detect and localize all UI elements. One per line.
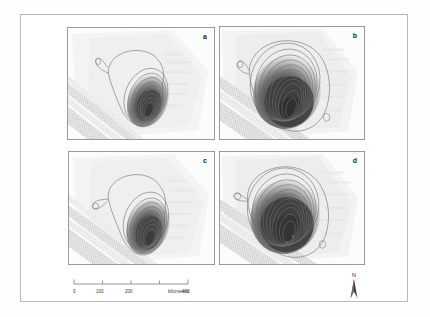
map-panel-c[interactable]: c xyxy=(68,151,215,265)
panel-b-label: b xyxy=(353,32,357,39)
north-arrow: N xyxy=(343,273,365,305)
panel-a-label: a xyxy=(203,33,207,40)
map-panel-a[interactable]: a xyxy=(67,27,215,140)
scale-tick-0: 0 xyxy=(73,290,76,295)
scale-bar-units: kilometers xyxy=(168,290,189,295)
north-arrow-label: N xyxy=(343,273,365,278)
panel-c-graphic xyxy=(69,152,214,264)
panel-a-graphic xyxy=(68,28,214,139)
figure-root: a xyxy=(0,0,430,317)
scale-bar: 0 100 200 400 kilometers xyxy=(73,277,195,301)
panel-d-label: d xyxy=(353,157,357,164)
map-panel-d[interactable]: d xyxy=(219,151,365,265)
panel-b-graphic xyxy=(220,27,364,139)
scale-tick-100: 100 xyxy=(96,290,104,295)
map-panel-b[interactable]: b xyxy=(219,26,365,140)
panel-c-label: c xyxy=(203,157,207,164)
figure-outer-frame: a xyxy=(20,14,408,302)
north-arrow-icon xyxy=(348,279,360,299)
panel-d-graphic xyxy=(220,152,364,264)
scale-tick-200: 200 xyxy=(125,290,133,295)
